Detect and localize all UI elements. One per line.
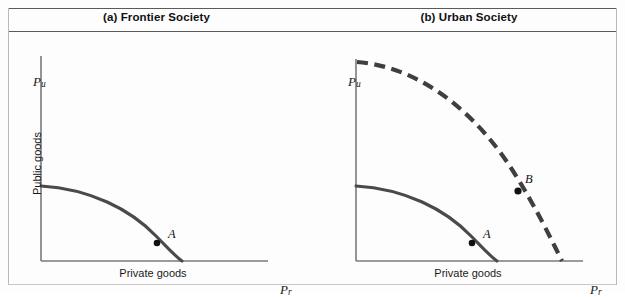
y-axis-title-frontier: Public goods (31, 132, 43, 195)
plot-area-frontier-society (0, 31, 313, 285)
panel-title-frontier-society: (a) Frontier Society (0, 11, 313, 23)
x-axis-symbol-subscript: r (288, 287, 292, 297)
y-axis-symbol-base: P (33, 74, 41, 89)
x-axis-symbol-pr: Pr (590, 283, 602, 297)
point-label-a-frontier: A (168, 228, 176, 241)
x-axis-symbol-base: P (280, 282, 288, 297)
point-label-b-urban: B (525, 173, 533, 186)
x-axis-symbol-pr: Pr (280, 283, 292, 297)
curve-frontier-solid (41, 186, 182, 261)
y-axis-symbol-base: P (348, 74, 356, 89)
point-marker-a (469, 240, 476, 247)
curve-expanded-dashed (357, 62, 562, 261)
point-label-a-urban: A (483, 228, 491, 241)
y-axis-symbol-pu: Pu (33, 75, 46, 89)
x-axis-title-frontier: Private goods (41, 267, 265, 279)
frame-top-border (8, 8, 617, 9)
curve-original-solid (356, 186, 497, 261)
y-axis-symbol-subscript: u (41, 79, 46, 89)
y-axis-symbol-subscript: u (356, 79, 361, 89)
point-marker-a (154, 240, 161, 247)
x-axis-title-urban: Private goods (356, 267, 580, 279)
y-axis-symbol-pu: Pu (348, 75, 361, 89)
point-marker-b (514, 187, 521, 194)
panel-title-urban-society: (b) Urban Society (313, 11, 625, 23)
plot-area-urban-society (313, 31, 625, 285)
panel-frontier-society: Pu Pr (0, 31, 313, 285)
x-axis-symbol-base: P (590, 282, 598, 297)
x-axis-symbol-subscript: r (598, 287, 602, 297)
panel-urban-society: Pu Pr (313, 31, 625, 285)
